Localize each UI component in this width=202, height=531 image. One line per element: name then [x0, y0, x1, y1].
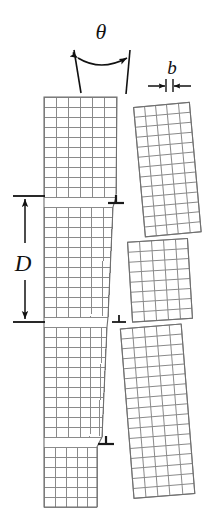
spacing-label: D	[14, 251, 32, 276]
burgers-label: b	[167, 57, 177, 78]
theta-label: θ	[96, 19, 107, 44]
dislocation-diagram: θ b D	[0, 0, 202, 531]
diagram-canvas: θ b D	[0, 0, 202, 531]
